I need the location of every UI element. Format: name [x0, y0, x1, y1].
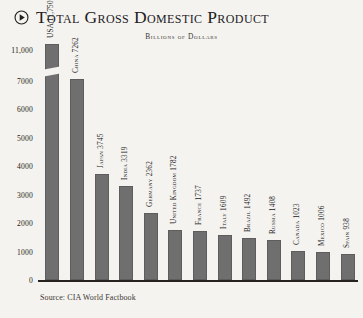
x-axis-line: [38, 280, 358, 282]
bar-label: Germany 2362: [146, 161, 154, 207]
bar-item[interactable]: China 7262: [70, 79, 84, 281]
source-note: Source: CIA World Factbook: [40, 293, 136, 302]
y-axis-tick-label: 0: [29, 276, 33, 285]
bar-label: Canada 1023: [294, 203, 302, 245]
y-axis-tick-label: 6000: [17, 105, 33, 114]
y-axis-tick-label: 4000: [17, 162, 33, 171]
bar-rect: [341, 254, 355, 281]
bar-item[interactable]: Brazil 1492: [242, 238, 256, 281]
bar-rect: [119, 186, 133, 281]
bar-label: Brazil 1492: [245, 193, 253, 231]
bar-item[interactable]: USA 11,750: [45, 44, 59, 280]
y-axis-tick-label: 3000: [17, 190, 33, 199]
play-circle-icon: [14, 10, 29, 25]
bar-item[interactable]: Italy 1609: [218, 235, 232, 281]
bar-label: China 7262: [72, 37, 80, 73]
bar-rect: [316, 252, 330, 281]
bar-rect: [193, 231, 207, 281]
y-axis-tick-label: 7000: [17, 76, 33, 85]
y-axis-tick-label: 1000: [17, 247, 33, 256]
bar-series: USA 11,750China 7262Japan 3745India 3319…: [38, 44, 358, 280]
bar-rect: [95, 174, 109, 281]
bar-item[interactable]: Russia 1408: [267, 240, 281, 280]
bar-label: Spain 938: [343, 218, 351, 248]
bar-label: United Kingdom 1782: [171, 155, 179, 224]
bar-item[interactable]: India 3319: [119, 186, 133, 281]
bar-rect: [70, 79, 84, 281]
y-axis-tick-label: 5000: [17, 133, 33, 142]
bar-item[interactable]: Mexico 1006: [316, 252, 330, 281]
bar-item[interactable]: Canada 1023: [291, 251, 305, 280]
y-axis-tick-label: 11,000: [11, 45, 33, 54]
bar-item[interactable]: Spain 938: [341, 254, 355, 281]
bar-item[interactable]: Japan 3745: [95, 174, 109, 281]
page-title: Total Gross Domestic Product: [36, 9, 269, 27]
bar-item[interactable]: United Kingdom 1782: [168, 230, 182, 281]
bar-label: Russia 1408: [269, 196, 277, 234]
plot-area: USA 11,750China 7262Japan 3745India 3319…: [38, 44, 358, 282]
bar-rect: [218, 235, 232, 281]
bar-rect: [291, 251, 305, 280]
chart-page: Total Gross Domestic Product Billions of…: [0, 0, 363, 318]
bar-item[interactable]: Germany 2362: [144, 213, 158, 280]
bar-rect: [168, 230, 182, 281]
bar-label: France 1737: [195, 185, 203, 225]
bar-label: USA 11,750: [48, 0, 56, 38]
y-axis-labels: 11,00070006000500040003000200010000: [0, 44, 36, 282]
bar-rect: [267, 240, 281, 280]
y-axis-tick-label: 2000: [17, 219, 33, 228]
bar-label: Italy 1609: [220, 195, 228, 229]
bar-item[interactable]: France 1737: [193, 231, 207, 281]
bar-label: India 3319: [122, 146, 130, 180]
bar-rect: [45, 44, 59, 280]
bar-label: Mexico 1006: [318, 205, 326, 246]
bar-rect: [144, 213, 158, 280]
bar-label: Japan 3745: [97, 133, 105, 168]
bar-rect: [242, 238, 256, 281]
